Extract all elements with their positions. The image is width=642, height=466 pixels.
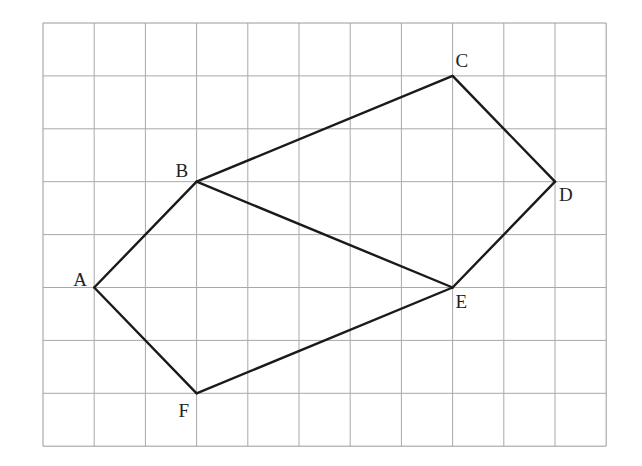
vertex-label-d: D (559, 184, 573, 205)
vertex-label-a: A (73, 269, 87, 290)
vertex-label-b: B (176, 160, 189, 181)
geometry-diagram: ABCDEF (0, 0, 642, 466)
vertex-labels: ABCDEF (73, 50, 573, 421)
vertex-label-f: F (179, 400, 190, 421)
vertex-label-c: C (456, 50, 469, 71)
vertex-label-e: E (456, 291, 468, 312)
